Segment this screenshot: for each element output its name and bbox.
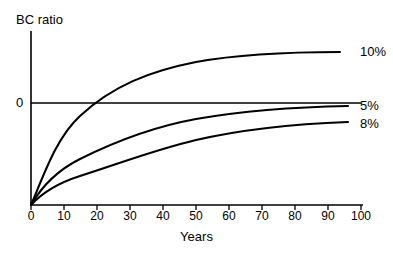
x-tick-label-60: 60	[214, 210, 244, 222]
x-tick-label-80: 80	[280, 210, 310, 222]
x-tick-label-40: 40	[148, 210, 178, 222]
x-tick-label-70: 70	[247, 210, 277, 222]
series-label-5-percent: 5%	[360, 99, 379, 112]
chart-figure: BC ratio 0 0 10 20 30 40 50 60 70 80 90 …	[0, 0, 393, 254]
x-tick-label-20: 20	[82, 210, 112, 222]
series-label-8-percent: 8%	[360, 117, 379, 130]
x-tick-label-30: 30	[115, 210, 145, 222]
series-label-10-percent: 10%	[360, 45, 386, 58]
x-tick-label-100: 100	[346, 210, 376, 222]
x-tick-label-50: 50	[181, 210, 211, 222]
x-tick-label-10: 10	[49, 210, 79, 222]
x-axis-title: Years	[0, 230, 393, 243]
y-axis-zero-label: 0	[16, 96, 23, 109]
y-axis-title: BC ratio	[16, 13, 63, 26]
x-tick-label-0: 0	[16, 210, 46, 222]
x-tick-label-90: 90	[313, 210, 343, 222]
